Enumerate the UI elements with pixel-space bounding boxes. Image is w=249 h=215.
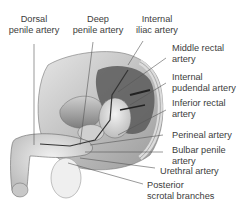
label-internal-pudendal-artery: Internal pudendal artery: [172, 72, 236, 93]
label-line: iliac artery: [132, 25, 182, 36]
label-line: pudendal artery: [172, 83, 236, 94]
label-line: Internal: [172, 72, 236, 83]
label-line: penile artery: [4, 25, 64, 36]
label-line: scrotal branches: [147, 191, 214, 202]
label-line: Middle rectal: [172, 43, 224, 54]
label-posterior-scrotal-branches: Posterior scrotal branches: [147, 180, 214, 201]
label-line: artery: [172, 54, 224, 65]
label-line: Bulbar penile: [172, 145, 226, 156]
label-line: Perineal artery: [172, 130, 232, 141]
label-line: artery: [172, 109, 226, 120]
label-line: Urethral artery: [160, 166, 219, 177]
label-bulbar-penile-artery: Bulbar penile artery: [172, 145, 226, 166]
label-perineal-artery: Perineal artery: [172, 130, 232, 141]
label-line: penile artery: [70, 25, 126, 36]
label-line: Dorsal: [4, 14, 64, 25]
label-middle-rectal-artery: Middle rectal artery: [172, 43, 224, 64]
label-line: Inferior rectal: [172, 98, 226, 109]
label-line: artery: [172, 156, 226, 167]
testis: [51, 158, 81, 198]
label-deep-penile-artery: Deep penile artery: [70, 14, 126, 35]
label-line: Internal: [132, 14, 182, 25]
label-urethral-artery: Urethral artery: [160, 166, 219, 177]
glans: [12, 183, 28, 197]
label-line: Deep: [70, 14, 126, 25]
label-dorsal-penile-artery: Dorsal penile artery: [4, 14, 64, 35]
label-line: Posterior: [147, 180, 214, 191]
label-internal-iliac-artery: Internal iliac artery: [132, 14, 182, 35]
label-inferior-rectal-artery: Inferior rectal artery: [172, 98, 226, 119]
